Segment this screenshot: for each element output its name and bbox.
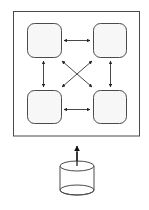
node-top-right[interactable] (94, 24, 127, 58)
node-bottom-left[interactable] (28, 91, 62, 124)
node-top-left[interactable] (28, 24, 62, 58)
database-icon[interactable] (60, 161, 94, 195)
node-bottom-right[interactable] (94, 91, 127, 124)
diagram-canvas (0, 0, 149, 210)
